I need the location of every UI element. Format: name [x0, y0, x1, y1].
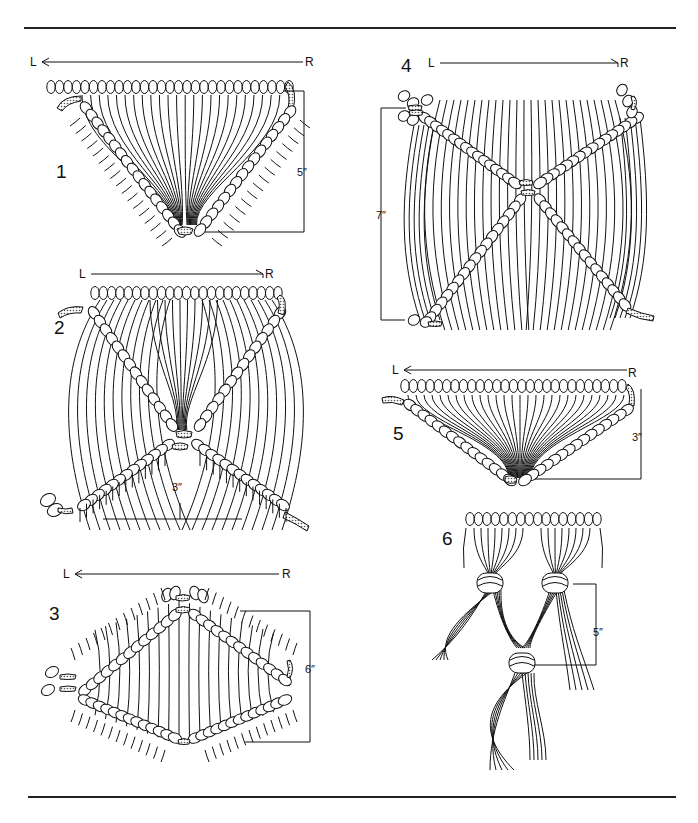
dimension-label-4: 7″	[376, 210, 386, 221]
figure-number-5: 5	[393, 424, 404, 443]
figure-number-1: 1	[56, 162, 67, 181]
dimension-label-6: 5″	[593, 627, 603, 638]
arrow-label-left: L	[30, 56, 37, 68]
figure-1-triangle	[47, 81, 310, 247]
arrow-label-left: L	[428, 57, 435, 69]
figure-number-4: 4	[401, 56, 412, 75]
figure-5-shallow-triangle	[382, 380, 636, 489]
arrow-label-left: L	[63, 568, 70, 580]
arrow-label-right: R	[305, 56, 314, 68]
figure-6-gathering-knots	[432, 513, 603, 771]
arrow-label-left: L	[392, 364, 399, 376]
dimension-label-2: 3″	[172, 482, 182, 493]
figure-number-3: 3	[49, 604, 60, 623]
arrow-label-left: L	[79, 268, 86, 280]
figure-4-x	[396, 82, 654, 330]
dimension-label-5: 3″	[632, 432, 642, 443]
figure-2-crossed	[38, 287, 309, 532]
figure-number-2: 2	[54, 318, 65, 337]
arrow-label-right: R	[265, 268, 274, 280]
arrow-label-right: R	[282, 568, 291, 580]
arrow-label-right: R	[620, 57, 629, 69]
dimension-label-1: 5″	[297, 167, 307, 178]
dimension-label-3: 6″	[305, 664, 315, 675]
figure-number-6: 6	[442, 529, 453, 548]
macrame-illustrations	[0, 0, 698, 823]
arrow-label-right: R	[628, 367, 637, 379]
